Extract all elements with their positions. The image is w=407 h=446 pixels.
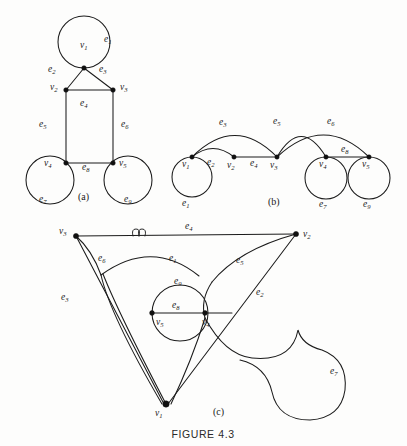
label-e4-b: e4 xyxy=(250,158,258,169)
vertex-v1-a xyxy=(82,66,87,71)
label-e6-c: e6 xyxy=(98,253,106,264)
vertex-v5-a xyxy=(111,161,116,166)
panel-label-a: (a) xyxy=(78,191,89,203)
panel-a-graph xyxy=(26,16,152,204)
vertex-v5-b xyxy=(367,155,371,159)
vertex-v3-a xyxy=(111,88,116,93)
vertex-v5-c xyxy=(150,311,155,316)
label-e9-b: e9 xyxy=(363,199,371,210)
label-e8-b: e8 xyxy=(341,144,349,155)
label-e6-a: e6 xyxy=(121,119,129,130)
vertex-v1-c xyxy=(163,401,169,407)
panel-label-c: (c) xyxy=(213,406,224,418)
panel-c-edge-labels: e4 e6 e1 e5 e3 e9 e8 e2 e7 xyxy=(61,221,338,377)
label-e4-c: e4 xyxy=(185,221,193,232)
label-v5-c: v5 xyxy=(156,317,164,328)
vertex-v2-b xyxy=(232,155,236,159)
label-e5-b: e5 xyxy=(273,116,281,127)
vertex-v1-b xyxy=(190,155,194,159)
edge-e6-c-lower xyxy=(101,275,162,404)
figure-4-3-svg: v1 v2 v3 v4 v5 e1 e2 e3 e4 e5 e6 e7 e8 e… xyxy=(0,0,407,446)
figure-container: v1 v2 v3 v4 v5 e1 e2 e3 e4 e5 e6 e7 e8 e… xyxy=(0,0,407,446)
edge-e4-c xyxy=(76,234,296,236)
edge-e3-b xyxy=(192,136,277,158)
panel-a-edge-labels: e1 e2 e3 e4 e5 e6 e7 e8 e9 xyxy=(39,34,132,205)
vertex-v3-b xyxy=(275,155,279,159)
label-e8-c: e8 xyxy=(172,300,180,311)
label-e3-a: e3 xyxy=(99,64,107,75)
label-e7-b: e7 xyxy=(319,199,327,210)
label-v3-c: v3 xyxy=(59,226,67,237)
label-v3-a: v3 xyxy=(120,82,128,93)
label-v4-a: v4 xyxy=(44,158,52,169)
vertex-v2-a xyxy=(64,88,69,93)
label-v5-b: v5 xyxy=(362,159,370,170)
label-v1-b: v1 xyxy=(182,159,190,170)
label-e5-a: e5 xyxy=(39,119,47,130)
vertex-v4-a xyxy=(64,161,69,166)
label-v1-c: v1 xyxy=(155,408,163,419)
label-e1-b: e1 xyxy=(182,198,190,209)
label-v4-b: v4 xyxy=(319,159,327,170)
vertex-v4-b xyxy=(324,155,328,159)
label-e9-c: e9 xyxy=(174,276,182,287)
vertex-v3-c xyxy=(73,233,78,238)
label-v2-a: v2 xyxy=(50,82,58,93)
label-e8-a: e8 xyxy=(82,162,90,173)
label-e7-c: e7 xyxy=(330,366,338,377)
label-e7-a: e7 xyxy=(39,194,47,205)
edge-e1-loop-b xyxy=(172,157,212,197)
panel-c-vertex-labels: v3 v2 v1 v5 v4 xyxy=(59,226,311,419)
label-e5-c: e5 xyxy=(236,255,244,266)
edge-e2-b xyxy=(192,149,234,158)
label-e1-a: e1 xyxy=(104,34,112,45)
label-v3-b: v3 xyxy=(270,160,278,171)
label-v2-b: v2 xyxy=(227,160,235,171)
label-e2-a: e2 xyxy=(48,64,56,75)
edge-e7-loop-c xyxy=(205,318,345,420)
label-v2-c: v2 xyxy=(303,229,311,240)
vertex-v2-c xyxy=(293,231,298,236)
label-v5-a: v5 xyxy=(119,158,127,169)
edge-e1-c-arc xyxy=(101,257,199,276)
label-e3-b: e3 xyxy=(219,117,227,128)
edge-e6-b xyxy=(277,135,369,157)
label-e1-c: e1 xyxy=(169,253,177,264)
edge-e6-c-lower2 xyxy=(103,274,166,404)
panel-b-graph xyxy=(172,135,390,199)
edge-e3-c xyxy=(76,236,164,404)
edge-e2-c xyxy=(168,234,296,404)
edge-e2-a xyxy=(66,68,84,90)
label-e2-c: e2 xyxy=(256,287,264,298)
label-e4-a: e4 xyxy=(80,98,88,109)
panel-label-b: (b) xyxy=(268,196,280,208)
label-v1-a: v1 xyxy=(80,40,88,51)
label-e3-c: e3 xyxy=(61,292,69,303)
label-e2-b: e2 xyxy=(207,157,215,168)
label-e6-b: e6 xyxy=(327,116,335,127)
label-e9-a: e9 xyxy=(124,194,132,205)
vertex-v4-c xyxy=(203,311,208,316)
label-v4-c: v4 xyxy=(202,317,210,328)
figure-caption: FIGURE 4.3 xyxy=(171,428,234,440)
edge-e5-c xyxy=(212,234,296,282)
